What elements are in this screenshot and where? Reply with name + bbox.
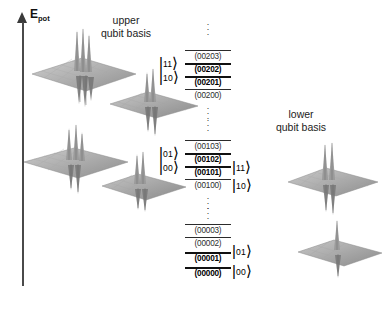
level-state-string: (00000) (185, 269, 231, 279)
ket-angle: ⟩ (246, 262, 252, 279)
ket-label-lower-00: |00⟩ (232, 264, 252, 279)
ket-angle: ⟩ (173, 158, 179, 175)
ket-label-middle-00: |00⟩ (159, 160, 179, 175)
level-row: (00101) (185, 166, 231, 179)
dot: · (203, 216, 213, 221)
dot: · (203, 128, 213, 133)
level-state-string: (00001) (185, 254, 231, 264)
surface-plot-5-graphic (286, 142, 384, 218)
level-state-string: (00103) (185, 142, 231, 152)
dot: · (203, 32, 213, 37)
level-state-string: (00202) (185, 65, 231, 75)
ket-label-upper-10: |10⟩ (159, 70, 179, 85)
level-state-string: (00002) (185, 239, 231, 249)
caption-upper-line1: upper (85, 14, 167, 27)
level-row: (00202) (185, 63, 231, 76)
level-row: (00102) (185, 153, 231, 166)
level-state-string: (00203) (185, 52, 231, 62)
ellipsis-above-middle-group: · · · (203, 118, 213, 134)
axis-label-sub: pot (38, 14, 50, 23)
ket-bits: 01 (236, 247, 246, 257)
ket-bits: 00 (236, 267, 246, 277)
ket-bits: 01 (163, 149, 173, 159)
level-row: (00200) (185, 89, 231, 102)
level-row: (00100) (185, 179, 231, 192)
ket-bits: 00 (163, 163, 173, 173)
level-row: (00003) (185, 224, 231, 237)
ket-bits: 11 (236, 163, 245, 173)
ket-bits: 10 (163, 73, 173, 83)
ket-angle: ⟩ (246, 242, 252, 259)
level-row: (00002) (185, 237, 231, 250)
surface-plot-5 (286, 142, 384, 218)
caption-lower-qubit-basis: lower qubit basis (262, 108, 340, 134)
ellipsis-above-upper-group: · · · (203, 22, 213, 38)
figure-canvas: Epot upper qubit basis lower qubit basis (0, 0, 384, 312)
ellipsis-above-lower-group: · · · (203, 206, 213, 222)
level-state-string: (00101) (185, 168, 231, 178)
level-state-string: (00100) (185, 181, 231, 191)
ket-angle: ⟩ (173, 68, 179, 85)
ket-label-middle-right-11: |11⟩ (232, 160, 251, 175)
level-row: (00201) (185, 76, 231, 89)
ket-bits: 11 (163, 59, 172, 69)
caption-lower-line2: qubit basis (262, 121, 340, 134)
ket-angle: ⟩ (246, 176, 252, 193)
ket-label-middle-right-10: |10⟩ (232, 178, 252, 193)
surface-plot-6-graphic (296, 216, 384, 282)
level-row: (00203) (185, 50, 231, 63)
level-state-string: (00200) (185, 91, 231, 101)
level-state-string: (00201) (185, 78, 231, 88)
level-row: (00000) (185, 267, 231, 280)
ket-label-lower-01: |01⟩ (232, 244, 252, 259)
level-row: (00001) (185, 252, 231, 265)
level-state-string: (00003) (185, 226, 231, 236)
caption-lower-line1: lower (262, 108, 340, 121)
level-state-string: (00102) (185, 155, 231, 165)
axis-label-main: E (30, 7, 38, 21)
level-row: (00103) (185, 140, 231, 153)
surface-plot-6 (296, 216, 384, 282)
axis-label-epot: Epot (30, 7, 50, 23)
ket-bits: 10 (236, 181, 246, 191)
ket-angle: ⟩ (245, 158, 251, 175)
